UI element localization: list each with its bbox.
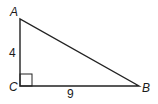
vertex-label-c: C (9, 81, 18, 93)
right-angle-marker (20, 74, 32, 86)
side-label-ac: 4 (9, 47, 16, 59)
vertex-label-b: B (142, 82, 150, 94)
side-label-cb: 9 (67, 88, 74, 100)
triangle-diagram (0, 0, 158, 104)
vertex-label-a: A (10, 6, 18, 18)
triangle-abc (20, 19, 139, 86)
